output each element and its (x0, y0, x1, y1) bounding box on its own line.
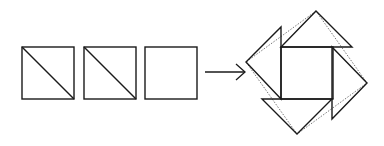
center-square (281, 47, 333, 99)
input-pieces (22, 47, 197, 99)
diagonal-line (84, 47, 136, 99)
arrow (205, 64, 245, 80)
square-1 (22, 47, 74, 99)
dotted-outer-square (246, 11, 367, 134)
diagram-canvas (0, 0, 384, 146)
square-3 (145, 47, 197, 99)
pinwheel-result (246, 11, 367, 134)
triangle-left (246, 27, 281, 99)
square-2 (84, 47, 136, 99)
diagonal-line (22, 47, 74, 99)
square-outline (145, 47, 197, 99)
